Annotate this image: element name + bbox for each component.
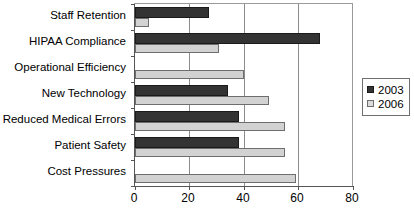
bar-2003-patient-safety <box>135 137 239 148</box>
legend: 2003 2006 <box>362 78 410 116</box>
gridline-60 <box>298 4 299 186</box>
category-tick-5 <box>131 134 135 135</box>
category-label-patient-safety: Patient Safety <box>0 139 126 151</box>
bar-2003-staff-retention <box>135 7 209 18</box>
bar-2006-staff-retention <box>135 18 149 27</box>
legend-swatch-2003-icon <box>367 86 374 93</box>
plot-area <box>134 4 353 186</box>
legend-entry-2006: 2006 <box>367 97 406 110</box>
legend-entry-2003: 2003 <box>367 83 406 96</box>
xtick-label-80: 80 <box>337 192 367 205</box>
legend-label-2003: 2003 <box>378 84 404 96</box>
bar-2006-patient-safety <box>135 148 285 157</box>
gridline-40 <box>244 4 245 186</box>
category-label-reduced-medical-errors: Reduced Medical Errors <box>0 113 126 125</box>
xtick-label-40: 40 <box>228 192 258 205</box>
bar-2006-operational-efficiency <box>135 70 244 79</box>
legend-swatch-2006-icon <box>367 100 374 107</box>
bar-2006-cost-pressures <box>135 174 296 183</box>
xtick-label-20: 20 <box>173 192 203 205</box>
category-tick-0 <box>131 4 135 5</box>
category-tick-1 <box>131 30 135 31</box>
category-label-new-technology: New Technology <box>0 87 126 99</box>
xtick-label-0: 0 <box>119 192 149 205</box>
xtick-label-60: 60 <box>282 192 312 205</box>
bar-2006-reduced-medical-errors <box>135 122 285 131</box>
horizontal-bar-chart: Staff Retention HIPAA Compliance Operati… <box>0 0 414 221</box>
category-tick-6 <box>131 160 135 161</box>
category-label-operational-efficiency: Operational Efficiency <box>0 61 126 73</box>
bar-2003-new-technology <box>135 85 228 96</box>
bar-2003-reduced-medical-errors <box>135 111 239 122</box>
category-axis: Staff Retention HIPAA Compliance Operati… <box>0 0 130 186</box>
value-axis-baseline <box>134 186 353 187</box>
xtick-80 <box>353 186 354 190</box>
bar-2006-new-technology <box>135 96 269 105</box>
category-tick-4 <box>131 108 135 109</box>
category-label-staff-retention: Staff Retention <box>0 9 126 21</box>
category-tick-2 <box>131 56 135 57</box>
bar-2006-hipaa-compliance <box>135 44 219 53</box>
category-label-hipaa-compliance: HIPAA Compliance <box>0 35 126 47</box>
legend-label-2006: 2006 <box>378 98 404 110</box>
category-label-cost-pressures: Cost Pressures <box>0 165 126 177</box>
category-tick-3 <box>131 82 135 83</box>
bar-2003-hipaa-compliance <box>135 33 320 44</box>
